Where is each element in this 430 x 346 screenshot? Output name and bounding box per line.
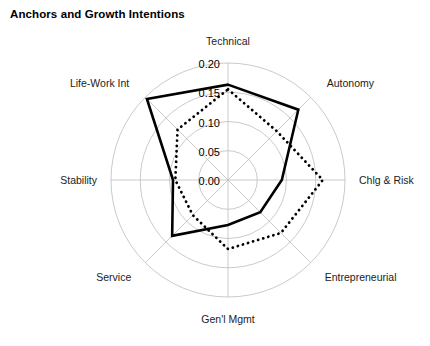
series-layer <box>147 85 323 249</box>
radar-chart-canvas: 0.000.050.100.150.20 TechnicalAutonomyCh… <box>0 0 430 346</box>
axis-label-chlg-risk: Chlg & Risk <box>359 174 415 186</box>
radial-tick-label-0.20: 0.20 <box>199 58 220 70</box>
axis-label-service: Service <box>96 271 131 283</box>
axis-spoke-7 <box>145 97 228 180</box>
radial-tick-label-0.15: 0.15 <box>199 87 220 99</box>
radar-chart: 0.000.050.100.150.20 TechnicalAutonomyCh… <box>0 0 430 346</box>
radial-tick-label-0.00: 0.00 <box>199 175 220 187</box>
radial-tick-label-0.05: 0.05 <box>199 146 220 158</box>
axis-label-gen-l-mgmt: Gen'l Mgmt <box>201 313 254 325</box>
axis-label-autonomy: Autonomy <box>327 77 375 89</box>
series-polygon-dotted <box>175 89 322 249</box>
axis-spoke-5 <box>145 180 228 263</box>
series-polygon-solid <box>147 85 298 236</box>
axis-label-stability: Stability <box>60 174 98 186</box>
radial-tick-label-0.10: 0.10 <box>199 117 220 129</box>
axis-label-technical: Technical <box>206 35 250 47</box>
axis-label-entrepreneurial: Entrepreneurial <box>325 271 397 283</box>
axis-label-life-work-int: Life-Work Int <box>70 77 129 89</box>
